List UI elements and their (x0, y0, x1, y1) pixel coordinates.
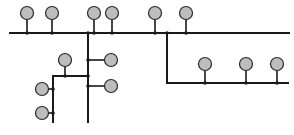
top-node-5-tap-dot (153, 31, 157, 35)
right-bus-node-2-icon (240, 58, 253, 71)
right-bus-node-1-tap-dot (203, 81, 207, 85)
top-node-3-tap-dot (92, 31, 96, 35)
left-bus-node-icon (59, 54, 72, 67)
right-bus-node-1-icon (199, 58, 212, 71)
left-vertical-node-lower-icon (36, 107, 49, 120)
bus-lines (10, 33, 289, 122)
bus-topology-diagram (0, 0, 294, 135)
bus-junction-1 (165, 31, 169, 35)
bus-junction-0 (86, 31, 90, 35)
left-vertical-node-lower-tap-dot (51, 111, 55, 115)
right-bus-node-2-tap-dot (244, 81, 248, 85)
network-nodes (21, 7, 284, 120)
trunk-node-lower-icon (105, 80, 118, 93)
junction-dots (25, 31, 279, 115)
right-bus-node-3-tap-dot (275, 81, 279, 85)
top-node-1-tap-dot (25, 31, 29, 35)
top-node-4-tap-dot (110, 31, 114, 35)
top-node-3-icon (88, 7, 101, 20)
trunk-node-upper-icon (105, 54, 118, 67)
top-node-6-icon (180, 7, 193, 20)
top-node-5-icon (149, 7, 162, 20)
top-node-1-icon (21, 7, 34, 20)
top-node-2-icon (46, 7, 59, 20)
left-vertical-node-upper-icon (36, 83, 49, 96)
top-node-6-tap-dot (184, 31, 188, 35)
top-node-4-icon (106, 7, 119, 20)
bus-junction-2 (86, 74, 90, 78)
right-bus-node-3-icon (271, 58, 284, 71)
top-node-2-tap-dot (50, 31, 54, 35)
left-bus-node-tap-dot (63, 74, 67, 78)
left-vertical-node-upper-tap-dot (51, 87, 55, 91)
trunk-node-lower-tap-dot (86, 84, 90, 88)
trunk-node-upper-tap-dot (86, 58, 90, 62)
